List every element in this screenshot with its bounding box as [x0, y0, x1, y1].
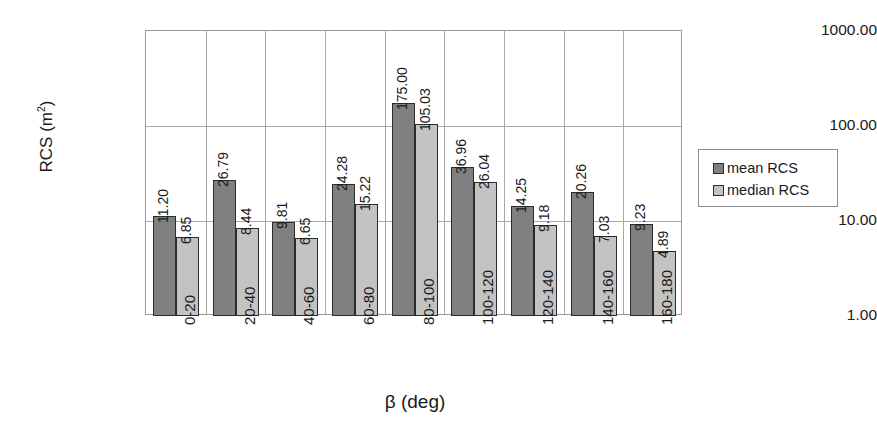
legend-item-mean[interactable]: mean RCS: [713, 157, 837, 179]
x-axis-tick-label: 60-80: [361, 287, 376, 325]
legend-item-median[interactable]: median RCS: [713, 179, 837, 201]
bar-mean: [511, 206, 534, 316]
x-axis-tick-label: 40-60: [301, 287, 316, 325]
bar-mean: [332, 184, 355, 316]
bar-value-label: 20.26: [574, 164, 588, 199]
bar-value-label: 4.89: [656, 230, 670, 257]
bar-value-label: 7.03: [597, 215, 611, 242]
bar-value-label: 6.85: [179, 216, 193, 243]
bar-value-label: 14.25: [514, 178, 528, 213]
legend-swatch-mean-icon: [713, 163, 724, 174]
bar-value-label: 9.23: [633, 204, 647, 231]
x-axis-tick-label: 0-20: [182, 295, 197, 325]
bar-value-label: 9.81: [275, 202, 289, 229]
gridline-vertical: [325, 31, 326, 314]
gridline-vertical: [444, 31, 445, 314]
bar-mean: [272, 222, 295, 316]
y-axis-tick-label: 1000.00: [745, 22, 877, 38]
bar-value-label: 11.20: [156, 189, 170, 223]
bar-mean: [451, 167, 474, 316]
y-axis-title-base: RCS (m: [37, 112, 56, 172]
gridline-vertical: [504, 31, 505, 314]
x-axis-tick-label: 20-40: [242, 287, 257, 325]
gridline-vertical: [623, 31, 624, 314]
gridline-vertical: [564, 31, 565, 314]
bar-value-label: 175.00: [395, 67, 409, 110]
y-axis-tick-label: 100.00: [745, 117, 877, 133]
y-axis-tick-label: 1.00: [745, 307, 877, 323]
bar-mean: [213, 180, 236, 316]
y-axis-tick-label: 10.00: [745, 212, 877, 228]
legend-label-median: median RCS: [727, 183, 809, 198]
bar-value-label: 36.96: [454, 139, 468, 174]
gridline-vertical: [265, 31, 266, 314]
rcs-bar-chart: RCS (m2) 1000.00100.0010.001.00 11.206.8…: [0, 0, 877, 434]
gridline-vertical: [206, 31, 207, 314]
y-axis-title: RCS (m2): [38, 57, 55, 217]
x-axis-tick-label: 160-180: [659, 270, 674, 325]
bar-value-label: 24.28: [335, 156, 349, 191]
bar-value-label: 105.03: [418, 88, 432, 131]
bar-value-label: 6.65: [298, 218, 312, 245]
bar-mean: [630, 224, 653, 316]
x-axis-tick-label: 140-160: [600, 270, 615, 325]
legend-label-mean: mean RCS: [727, 161, 798, 176]
x-axis-title: β (deg): [275, 392, 555, 411]
bar-value-label: 9.18: [537, 204, 551, 231]
bar-mean: [392, 103, 415, 316]
y-axis-title-exponent: 2: [35, 106, 47, 112]
legend: mean RCS median RCS: [698, 149, 838, 207]
bar-value-label: 8.44: [239, 208, 253, 235]
x-axis-tick-label: 80-100: [421, 278, 436, 325]
y-axis-title-tail: ): [37, 101, 56, 107]
bar-value-label: 15.22: [358, 176, 372, 211]
bar-mean: [571, 192, 594, 316]
bar-value-label: 26.79: [216, 152, 230, 187]
legend-swatch-median-icon: [713, 185, 724, 196]
x-axis-tick-label: 100-120: [480, 270, 495, 325]
x-axis-tick-label: 120-140: [540, 270, 555, 325]
bar-mean: [153, 216, 176, 316]
bar-value-label: 26.04: [477, 153, 491, 188]
gridline-vertical: [385, 31, 386, 314]
